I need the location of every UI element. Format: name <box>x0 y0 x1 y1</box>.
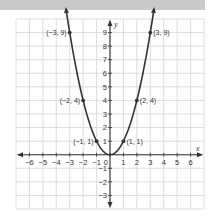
data-point <box>95 139 99 143</box>
point-label: (1, 1) <box>126 138 142 146</box>
y-tick-label: −3 <box>98 191 107 200</box>
point-label: (3, 9) <box>153 29 169 37</box>
x-tick-label: −3 <box>65 158 74 167</box>
x-tick-label: −5 <box>39 158 48 167</box>
data-point <box>135 99 139 103</box>
x-axis-label: x <box>195 144 200 153</box>
point-label: (2, 4) <box>140 97 156 105</box>
data-point <box>148 31 152 35</box>
y-tick-label: 4 <box>103 96 107 105</box>
x-tick-label: 4 <box>162 158 166 167</box>
x-tick-label: −4 <box>52 158 61 167</box>
x-tick-label: 2 <box>135 158 139 167</box>
y-axis-arrow-up-icon <box>108 20 113 26</box>
parabola-chart: xy −6−5−4−3−2−11234560987654321−1−2−3 (−… <box>0 0 218 220</box>
y-tick-label: −2 <box>98 178 107 187</box>
x-tick-label: 3 <box>148 158 152 167</box>
curve-arrow-icon <box>64 7 69 13</box>
y-tick-label: 3 <box>103 110 107 119</box>
curve-arrow-icon <box>151 7 156 13</box>
data-point <box>68 31 72 35</box>
y-tick-label: 2 <box>103 123 107 132</box>
point-label: (−2, 4) <box>60 97 80 105</box>
y-tick-label: 6 <box>103 69 107 78</box>
x-tick-label: −6 <box>25 158 34 167</box>
x-tick-label: 5 <box>175 158 179 167</box>
x-axis-arrow-left-icon <box>17 152 23 157</box>
y-axis-arrow-down-icon <box>108 202 113 208</box>
x-axis-arrow-right-icon <box>197 152 203 157</box>
x-tick-label: −2 <box>79 158 88 167</box>
point-label: (−3, 9) <box>46 29 66 37</box>
y-tick-label: 5 <box>103 83 107 92</box>
y-tick-label: 8 <box>103 42 107 51</box>
x-tick-label: 1 <box>121 158 125 167</box>
y-tick-label: 9 <box>103 28 107 37</box>
point-label: (−1, 1) <box>73 138 93 146</box>
labeled-points: (−3, 9)(−2, 4)(−1, 1)(1, 1)(2, 4)(3, 9) <box>46 29 169 146</box>
data-point <box>122 139 126 143</box>
data-point <box>81 99 85 103</box>
y-axis-label: y <box>113 20 118 29</box>
y-tick-label: −1 <box>98 164 107 173</box>
x-tick-label: 6 <box>188 158 192 167</box>
y-tick-label: 7 <box>103 55 107 64</box>
y-tick-label: 1 <box>103 137 107 146</box>
